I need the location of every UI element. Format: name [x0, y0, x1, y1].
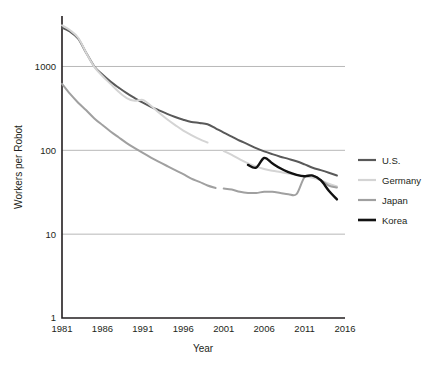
data-series: [62, 25, 337, 199]
y-axis-tick-labels: 1101001000: [35, 61, 56, 324]
series-line-germany-seg1: [62, 25, 208, 142]
series-line-us: [62, 28, 337, 176]
x-tick-label-1986: 1986: [92, 323, 113, 334]
x-tick-label-2011: 2011: [294, 323, 314, 334]
legend: U.S.GermanyJapanKorea: [358, 155, 421, 226]
axis-lines: [62, 16, 345, 318]
x-axis-tick-labels: 19811986199119962001200620112016: [51, 323, 355, 334]
workers-per-robot-line-chart: 1101001000 19811986199119962001200620112…: [0, 0, 441, 365]
x-tick-label-2016: 2016: [334, 323, 355, 334]
x-tick-label-2006: 2006: [254, 323, 275, 334]
axes: [62, 16, 345, 318]
x-tick-label-1981: 1981: [51, 323, 72, 334]
x-axis-title: Year: [193, 343, 214, 354]
gridlines: [62, 66, 345, 234]
legend-label-us: U.S.: [382, 155, 400, 166]
legend-label-japan: Japan: [382, 195, 408, 206]
x-tick-label-2001: 2001: [213, 323, 234, 334]
y-tick-label-1000: 1000: [35, 61, 56, 72]
legend-label-korea: Korea: [382, 215, 408, 226]
legend-label-germany: Germany: [382, 175, 421, 186]
chart-container: 1101001000 19811986199119962001200620112…: [0, 0, 441, 365]
y-tick-label-1: 1: [51, 312, 56, 323]
y-tick-label-100: 100: [40, 145, 56, 156]
x-tick-label-1991: 1991: [132, 323, 153, 334]
y-tick-label-10: 10: [45, 229, 56, 240]
x-tick-label-1996: 1996: [173, 323, 194, 334]
y-axis-title: Workers per Robot: [13, 125, 24, 209]
